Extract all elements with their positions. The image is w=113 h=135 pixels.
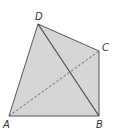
label-a: A <box>2 119 10 130</box>
quadrilateral-diagram: A B C D <box>0 0 113 135</box>
label-d: D <box>35 11 43 22</box>
quadrilateral-face <box>9 24 99 116</box>
label-b: B <box>96 119 103 130</box>
label-c: C <box>102 42 109 53</box>
